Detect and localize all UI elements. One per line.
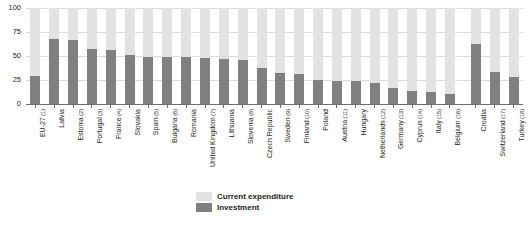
bar-stack[interactable] bbox=[388, 8, 398, 104]
bar-segment-investment[interactable] bbox=[106, 50, 116, 104]
bar-segment-current-expenditure[interactable] bbox=[49, 8, 59, 39]
bar-segment-current-expenditure[interactable] bbox=[471, 8, 481, 44]
bar-segment-investment[interactable] bbox=[275, 73, 285, 104]
bar-group[interactable] bbox=[139, 8, 158, 104]
bar-segment-investment[interactable] bbox=[49, 39, 59, 104]
bar-group[interactable] bbox=[158, 8, 177, 104]
bar-group[interactable] bbox=[233, 8, 252, 104]
bar-segment-investment[interactable] bbox=[426, 92, 436, 104]
bar-stack[interactable] bbox=[471, 8, 481, 104]
bar-segment-current-expenditure[interactable] bbox=[490, 8, 500, 72]
bar-group[interactable] bbox=[101, 8, 120, 104]
bar-segment-investment[interactable] bbox=[313, 80, 323, 104]
bar-segment-current-expenditure[interactable] bbox=[370, 8, 380, 83]
bar-group[interactable] bbox=[365, 8, 384, 104]
bar-group[interactable] bbox=[485, 8, 504, 104]
bar-group[interactable] bbox=[441, 8, 460, 104]
bar-stack[interactable] bbox=[509, 8, 519, 104]
bar-stack[interactable] bbox=[257, 8, 267, 104]
bar-group[interactable] bbox=[346, 8, 365, 104]
bar-segment-current-expenditure[interactable] bbox=[219, 8, 229, 59]
bar-segment-current-expenditure[interactable] bbox=[143, 8, 153, 57]
bar-stack[interactable] bbox=[294, 8, 304, 104]
bar-stack[interactable] bbox=[238, 8, 248, 104]
bar-segment-investment[interactable] bbox=[87, 49, 97, 104]
bar-stack[interactable] bbox=[445, 8, 455, 104]
bar-stack[interactable] bbox=[275, 8, 285, 104]
bar-segment-investment[interactable] bbox=[351, 81, 361, 104]
bar-group[interactable] bbox=[384, 8, 403, 104]
bar-group[interactable] bbox=[328, 8, 347, 104]
bar-group[interactable] bbox=[177, 8, 196, 104]
bar-group[interactable] bbox=[64, 8, 83, 104]
bar-group[interactable] bbox=[120, 8, 139, 104]
bar-stack[interactable] bbox=[407, 8, 417, 104]
bar-segment-current-expenditure[interactable] bbox=[407, 8, 417, 91]
bar-stack[interactable] bbox=[370, 8, 380, 104]
bar-stack[interactable] bbox=[219, 8, 229, 104]
bar-segment-current-expenditure[interactable] bbox=[68, 8, 78, 40]
bar-segment-current-expenditure[interactable] bbox=[294, 8, 304, 74]
bar-segment-current-expenditure[interactable] bbox=[181, 8, 191, 57]
bar-group[interactable] bbox=[83, 8, 102, 104]
bar-segment-investment[interactable] bbox=[125, 55, 135, 104]
bar-segment-current-expenditure[interactable] bbox=[351, 8, 361, 81]
bar-segment-current-expenditure[interactable] bbox=[238, 8, 248, 60]
bar-segment-investment[interactable] bbox=[162, 57, 172, 104]
bar-stack[interactable] bbox=[143, 8, 153, 104]
bar-segment-investment[interactable] bbox=[388, 88, 398, 104]
bar-stack[interactable] bbox=[162, 8, 172, 104]
bar-segment-current-expenditure[interactable] bbox=[125, 8, 135, 55]
bar-stack[interactable] bbox=[351, 8, 361, 104]
bar-segment-current-expenditure[interactable] bbox=[388, 8, 398, 88]
bar-group[interactable] bbox=[196, 8, 215, 104]
bar-segment-investment[interactable] bbox=[509, 77, 519, 104]
bar-segment-current-expenditure[interactable] bbox=[509, 8, 519, 77]
bar-group[interactable] bbox=[252, 8, 271, 104]
bar-segment-current-expenditure[interactable] bbox=[313, 8, 323, 80]
legend-item[interactable]: Investment bbox=[196, 203, 293, 212]
bar-segment-investment[interactable] bbox=[407, 91, 417, 104]
bar-segment-investment[interactable] bbox=[332, 81, 342, 104]
bar-group[interactable] bbox=[214, 8, 233, 104]
bar-segment-current-expenditure[interactable] bbox=[87, 8, 97, 49]
bar-group[interactable] bbox=[504, 8, 523, 104]
bar-stack[interactable] bbox=[200, 8, 210, 104]
bar-segment-current-expenditure[interactable] bbox=[445, 8, 455, 94]
bar-segment-current-expenditure[interactable] bbox=[200, 8, 210, 58]
bar-segment-current-expenditure[interactable] bbox=[332, 8, 342, 81]
bar-segment-investment[interactable] bbox=[68, 40, 78, 104]
bar-stack[interactable] bbox=[426, 8, 436, 104]
bar-group[interactable] bbox=[271, 8, 290, 104]
bar-segment-investment[interactable] bbox=[294, 74, 304, 104]
bar-stack[interactable] bbox=[106, 8, 116, 104]
bar-group[interactable] bbox=[290, 8, 309, 104]
bar-segment-investment[interactable] bbox=[30, 76, 40, 104]
bar-segment-investment[interactable] bbox=[370, 83, 380, 104]
bar-segment-current-expenditure[interactable] bbox=[30, 8, 40, 76]
bar-group[interactable] bbox=[422, 8, 441, 104]
bar-segment-investment[interactable] bbox=[219, 59, 229, 104]
bar-stack[interactable] bbox=[125, 8, 135, 104]
bar-segment-current-expenditure[interactable] bbox=[275, 8, 285, 73]
bar-group[interactable] bbox=[26, 8, 45, 104]
bar-stack[interactable] bbox=[30, 8, 40, 104]
bar-segment-current-expenditure[interactable] bbox=[257, 8, 267, 68]
bar-segment-investment[interactable] bbox=[143, 57, 153, 104]
bar-segment-investment[interactable] bbox=[181, 57, 191, 104]
bar-segment-investment[interactable] bbox=[200, 58, 210, 104]
bar-stack[interactable] bbox=[313, 8, 323, 104]
bar-stack[interactable] bbox=[332, 8, 342, 104]
bar-segment-investment[interactable] bbox=[257, 68, 267, 104]
bar-stack[interactable] bbox=[87, 8, 97, 104]
bar-segment-investment[interactable] bbox=[238, 60, 248, 104]
bar-stack[interactable] bbox=[49, 8, 59, 104]
bar-group[interactable] bbox=[466, 8, 485, 104]
bar-segment-investment[interactable] bbox=[490, 72, 500, 104]
bar-segment-current-expenditure[interactable] bbox=[162, 8, 172, 57]
bar-stack[interactable] bbox=[490, 8, 500, 104]
bar-group[interactable] bbox=[403, 8, 422, 104]
bar-segment-current-expenditure[interactable] bbox=[106, 8, 116, 50]
bar-group[interactable] bbox=[45, 8, 64, 104]
bar-stack[interactable] bbox=[68, 8, 78, 104]
